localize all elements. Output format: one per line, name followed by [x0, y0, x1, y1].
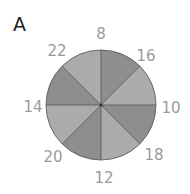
circle-diagram — [0, 0, 190, 194]
label-bottom: 12 — [94, 169, 113, 187]
label-top: 8 — [96, 25, 106, 43]
label-right: 10 — [161, 99, 180, 117]
label-top-left: 22 — [47, 42, 66, 60]
label-bottom-right: 18 — [144, 146, 163, 164]
label-left: 14 — [23, 98, 42, 116]
label-top-right: 16 — [136, 47, 155, 65]
label-bottom-left: 20 — [43, 148, 62, 166]
